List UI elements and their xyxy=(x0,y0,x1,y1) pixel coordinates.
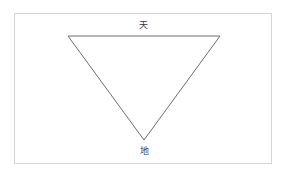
label-di-earth: 地 xyxy=(140,146,149,157)
diagram-page: 天 地 xyxy=(0,0,290,179)
label-tian-heaven: 天 xyxy=(139,20,148,31)
triangle-outline xyxy=(68,36,220,140)
